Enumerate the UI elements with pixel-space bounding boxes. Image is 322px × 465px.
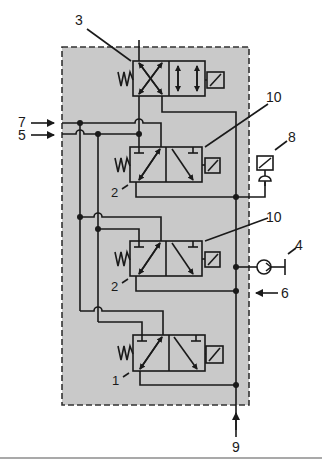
callout-10-upper: 10 bbox=[266, 89, 282, 105]
callout-2-lower: 2 bbox=[111, 279, 118, 294]
callout-2-upper: 2 bbox=[111, 185, 118, 200]
pressure-switch-8 bbox=[257, 156, 273, 186]
callout-6: 6 bbox=[281, 285, 289, 301]
callout-10-lower: 10 bbox=[266, 209, 282, 225]
check-valve-4 bbox=[257, 259, 285, 275]
valve-block-diagram: 3 10 8 7 5 2 10 4 2 6 1 9 bbox=[0, 0, 322, 465]
callout-1: 1 bbox=[112, 373, 119, 388]
callout-4: 4 bbox=[295, 237, 303, 253]
callout-5: 5 bbox=[18, 127, 26, 143]
callout-8: 8 bbox=[288, 129, 296, 145]
callout-3: 3 bbox=[75, 12, 83, 28]
callout-9: 9 bbox=[232, 439, 240, 455]
